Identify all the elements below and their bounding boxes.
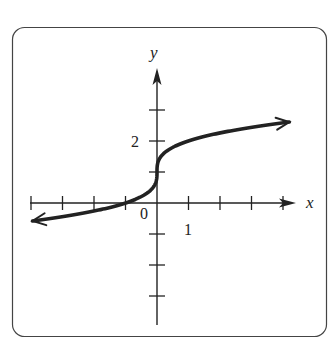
y-axis-label: y [148, 43, 158, 62]
graph-figure: x y 0 1 2 [0, 0, 330, 345]
y-axis [149, 68, 165, 325]
x-axis-label: x [305, 193, 314, 212]
origin-label: 0 [140, 205, 148, 222]
x-axis [30, 196, 296, 210]
x-tick-label-1: 1 [184, 221, 192, 238]
y-tick-label-2: 2 [131, 133, 139, 150]
frame [13, 28, 327, 337]
